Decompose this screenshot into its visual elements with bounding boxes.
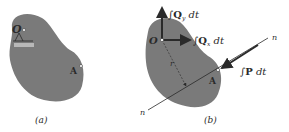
rigid-body-b (146, 18, 222, 107)
caption-a: (a) (35, 115, 48, 125)
point-a-marker-b (216, 68, 219, 71)
line-n-label-right: n (272, 33, 277, 42)
force-p-label: ∫P dt (240, 66, 267, 77)
point-a-marker (80, 65, 83, 68)
point-a-label-b: A (208, 76, 217, 86)
point-o-label: O (12, 23, 22, 36)
figure-b: n n r ∫Qy dt ∫Qx dt O ∫P dt A (b) (140, 8, 277, 125)
point-o-marker-b (160, 38, 163, 41)
figure-a: O A (a) (10, 14, 84, 125)
line-n-label-left: n (140, 108, 145, 117)
diagram-canvas: O A (a) n n r ∫Qy dt ∫Qx dt O ∫P dt A (b… (0, 0, 289, 132)
caption-b: (b) (204, 115, 217, 125)
force-qx-label: ∫Qx dt (193, 35, 225, 47)
point-o-label-b: O (149, 35, 158, 46)
force-p-arrow (222, 45, 258, 68)
point-o-marker (23, 29, 26, 32)
point-a-label: A (69, 66, 78, 76)
